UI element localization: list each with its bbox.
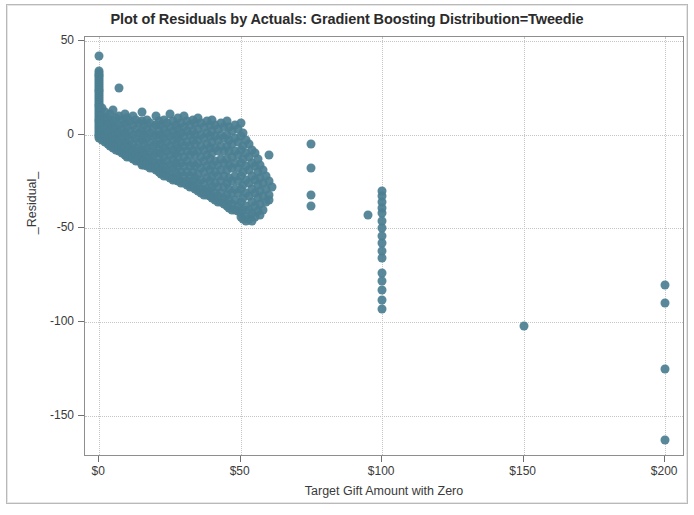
plot-canvas — [85, 37, 683, 455]
scatter-point — [661, 299, 670, 308]
scatter-point — [114, 83, 123, 92]
scatter-point — [364, 211, 373, 220]
scatter-point — [307, 164, 316, 173]
x-axis-tick — [98, 456, 99, 462]
x-axis-tick — [240, 456, 241, 462]
scatter-point — [267, 183, 276, 192]
y-axis-tick — [78, 321, 84, 322]
x-axis-tick-label: $50 — [230, 464, 250, 478]
scatter-point — [661, 280, 670, 289]
y-axis-tick-label: -150 — [26, 408, 74, 422]
scatter-point — [264, 196, 273, 205]
scatter-point — [661, 436, 670, 445]
gridline-vertical — [665, 37, 666, 455]
y-axis-tick — [78, 134, 84, 135]
scatter-point — [661, 364, 670, 373]
x-axis-tick-label: $200 — [651, 464, 678, 478]
y-axis-tick — [78, 227, 84, 228]
screenshot-root: Plot of Residuals by Actuals: Gradient B… — [0, 0, 694, 515]
y-axis-tick — [78, 415, 84, 416]
scatter-point — [378, 254, 387, 263]
x-axis-tick-label: $150 — [509, 464, 536, 478]
chart-title: Plot of Residuals by Actuals: Gradient B… — [0, 11, 694, 27]
x-axis-tick-label: $100 — [368, 464, 395, 478]
gridline-horizontal — [85, 416, 683, 417]
scatter-point — [378, 276, 387, 285]
scatter-point — [264, 151, 273, 160]
x-axis-tick — [381, 456, 382, 462]
gridline-horizontal — [85, 41, 683, 42]
scatter-point — [519, 321, 528, 330]
y-axis-tick-label: 50 — [26, 33, 74, 47]
scatter-point — [378, 304, 387, 313]
x-axis-tick — [664, 456, 665, 462]
scatter-point — [378, 286, 387, 295]
x-axis-title: Target Gift Amount with Zero — [84, 484, 684, 498]
scatter-point — [236, 119, 245, 128]
gridline-horizontal — [85, 322, 683, 323]
scatter-point — [307, 201, 316, 210]
y-axis-tick-label: 0 — [26, 127, 74, 141]
gridline-vertical — [524, 37, 525, 455]
gridline-vertical — [241, 37, 242, 455]
scatter-point — [378, 295, 387, 304]
x-axis-tick — [523, 456, 524, 462]
y-axis-tick-label: -100 — [26, 314, 74, 328]
x-axis-tick-label: $0 — [91, 464, 104, 478]
y-axis-tick — [78, 40, 84, 41]
scatter-point — [307, 190, 316, 199]
y-axis-title: _Residual_ — [25, 143, 39, 263]
scatter-point — [95, 51, 104, 60]
plot-area-frame — [84, 36, 684, 456]
scatter-point — [307, 139, 316, 148]
